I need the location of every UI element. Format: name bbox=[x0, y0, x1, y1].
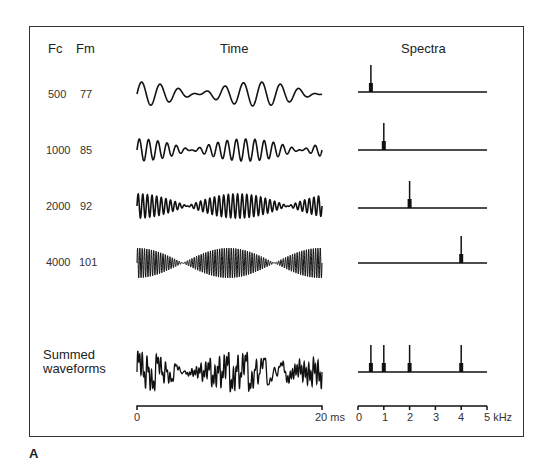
time-waveform-500 bbox=[137, 82, 322, 106]
time-waveform-2000 bbox=[137, 194, 322, 218]
time-waveform-1000 bbox=[137, 139, 322, 161]
summed-waveform bbox=[137, 351, 322, 392]
freq-axis bbox=[358, 406, 487, 410]
time-axis bbox=[137, 406, 322, 410]
waveform-plot bbox=[0, 0, 547, 465]
time-waveform-4000 bbox=[137, 248, 322, 278]
